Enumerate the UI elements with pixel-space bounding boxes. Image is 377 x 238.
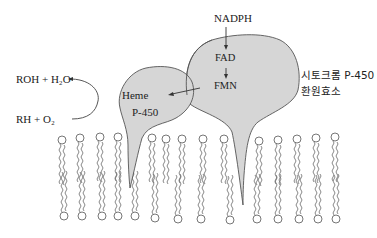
membrane-bottom-leaflet xyxy=(60,171,340,224)
p450-protein xyxy=(119,67,193,188)
label-rh-o2: RH + O₂ xyxy=(16,114,55,125)
label-roh-h2o: ROH + H₂O xyxy=(16,74,71,85)
label-fmn: FMN xyxy=(214,81,237,92)
reaction-arc xyxy=(72,79,98,119)
p450-membrane-diagram xyxy=(0,0,377,238)
label-p450: P-450 xyxy=(132,107,158,118)
label-fad: FAD xyxy=(215,53,235,64)
label-heme: Heme xyxy=(122,90,148,101)
label-nadph: NADPH xyxy=(214,13,252,24)
label-reductase-line2: 환원효소 xyxy=(301,86,341,97)
label-reductase-line1: 시토크롬 P-450 xyxy=(301,70,374,81)
membrane-top-leaflet xyxy=(58,133,339,186)
reductase-protein xyxy=(186,35,299,205)
